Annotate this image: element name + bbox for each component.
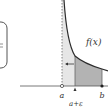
open-endpoint-a <box>60 84 63 87</box>
tick-arrow-a-plus-eps <box>74 88 77 92</box>
integral-diagram: f(x) a a+ε b <box>0 0 108 112</box>
label-a: a <box>60 91 65 100</box>
region-a-plus-eps-to-b <box>75 56 102 86</box>
closed-endpoint-b <box>100 84 103 87</box>
label-b: b <box>100 91 105 100</box>
region-a-to-a-plus-eps <box>62 0 75 86</box>
partial-panel-box <box>0 22 7 68</box>
label-f-of-x: f(x) <box>85 37 102 47</box>
label-a-plus-eps: a+ε <box>69 100 83 108</box>
